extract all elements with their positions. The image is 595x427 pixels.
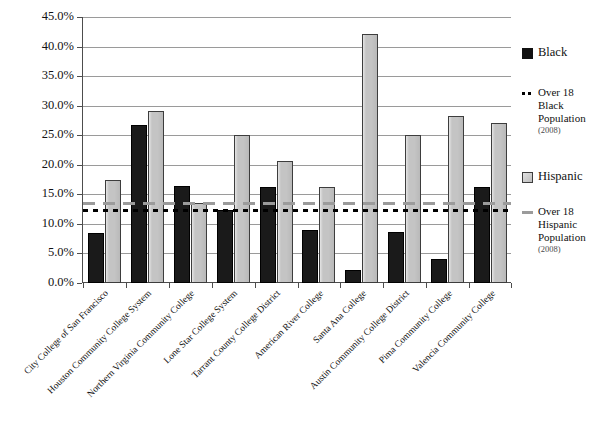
x-axis-tick-mark — [383, 283, 384, 288]
legend-entry[interactable]: Hispanic — [522, 170, 595, 184]
legend-entry[interactable]: Black — [522, 46, 595, 60]
y-axis-tick-label: 20.0% — [20, 158, 74, 170]
y-axis-tick-label: 40.0% — [20, 40, 74, 52]
x-axis-tick-mark — [83, 283, 84, 288]
legend-label: Over 18 Black Population — [538, 86, 595, 125]
reference-line-black — [83, 209, 511, 212]
x-axis-tick-mark — [255, 283, 256, 288]
y-axis-tick-label: 15.0% — [20, 187, 74, 199]
bar-hispanic — [448, 116, 464, 283]
y-axis-tick-label: 30.0% — [20, 99, 74, 111]
bar-black — [345, 270, 361, 283]
gridline — [83, 47, 511, 48]
bar-black — [388, 232, 404, 283]
bar-hispanic — [105, 180, 121, 283]
legend-sublabel: (2008) — [538, 244, 595, 255]
legend-entry[interactable]: Over 18 Black Population(2008) — [522, 86, 595, 136]
bar-hispanic — [362, 34, 378, 283]
x-axis-tick-mark — [298, 283, 299, 288]
bar-hispanic — [277, 161, 293, 283]
bar-chart: 45.0%40.0%35.0%30.0%25.0%20.0%15.0%10.0%… — [0, 0, 595, 427]
bar-hispanic — [148, 111, 164, 283]
legend-label: Over 18 Hispanic Population — [538, 205, 595, 244]
legend-entry[interactable]: Over 18 Hispanic Population(2008) — [522, 205, 595, 255]
legend-swatch-blackline-icon — [522, 88, 533, 99]
bar-black — [302, 230, 318, 283]
x-axis-tick-mark — [426, 283, 427, 288]
y-axis-tick-mark — [77, 283, 82, 284]
x-axis-tick-mark — [340, 283, 341, 288]
legend-swatch-hispline-icon — [522, 207, 533, 218]
legend-label: Hispanic — [538, 170, 582, 184]
bar-hispanic — [191, 203, 207, 283]
reference-line-hispanic — [83, 202, 511, 205]
y-axis-tick-label: 45.0% — [20, 10, 74, 22]
legend-label: Black — [538, 46, 567, 60]
bar-black — [88, 233, 104, 283]
x-axis-tick-mark — [212, 283, 213, 288]
bar-black — [217, 210, 233, 283]
legend-sublabel: (2008) — [538, 125, 595, 136]
y-axis-tick-label: 35.0% — [20, 69, 74, 81]
bar-black — [431, 259, 447, 283]
x-axis-tick-mark — [511, 283, 512, 288]
gridline — [83, 17, 511, 18]
y-axis-tick-label: 5.0% — [20, 246, 74, 258]
legend-swatch-black-icon — [522, 48, 533, 59]
y-axis-tick-label: 0.0% — [20, 276, 74, 288]
legend-swatch-hispanic-icon — [522, 172, 533, 183]
gridline — [83, 106, 511, 107]
x-axis-tick-mark — [126, 283, 127, 288]
chart-legend: BlackOver 18 Black Population(2008)Hispa… — [522, 46, 595, 263]
bar-black — [174, 186, 190, 283]
x-axis-tick-mark — [469, 283, 470, 288]
y-axis-tick-label: 25.0% — [20, 128, 74, 140]
plot-area — [82, 17, 511, 283]
gridline — [83, 76, 511, 77]
x-axis-tick-mark — [169, 283, 170, 288]
y-axis-tick-label: 10.0% — [20, 217, 74, 229]
